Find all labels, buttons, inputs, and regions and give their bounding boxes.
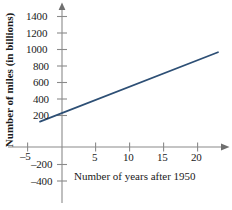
- data-line-miles: [40, 52, 218, 121]
- y-tick-label-600: 600: [33, 76, 49, 88]
- chart-figure: Number of miles (in billions) 1400 1200 …: [0, 0, 232, 210]
- y-tick-label-neg400: –400: [31, 175, 52, 187]
- y-axis-title: Number of miles (in billions): [3, 13, 16, 148]
- x-axis-title: Number of years after 1950: [74, 170, 196, 182]
- x-tick-label-10: 10: [123, 151, 134, 163]
- y-tick-label-1000: 1000: [26, 43, 47, 55]
- x-tick-label-5: 5: [92, 151, 97, 163]
- y-tick-label-200: 200: [33, 109, 49, 121]
- x-axis: [8, 143, 230, 150]
- x-tick-label-15: 15: [157, 151, 168, 163]
- y-tick-label-1400: 1400: [26, 10, 47, 22]
- y-tick-label-800: 800: [33, 60, 49, 72]
- x-tick-label-neg5: –5: [20, 150, 31, 162]
- y-tick-label-1200: 1200: [26, 27, 47, 39]
- y-tick-label-400: 400: [33, 93, 49, 105]
- x-tick-label-20: 20: [191, 151, 202, 163]
- y-tick-label-neg200: –200: [31, 158, 52, 170]
